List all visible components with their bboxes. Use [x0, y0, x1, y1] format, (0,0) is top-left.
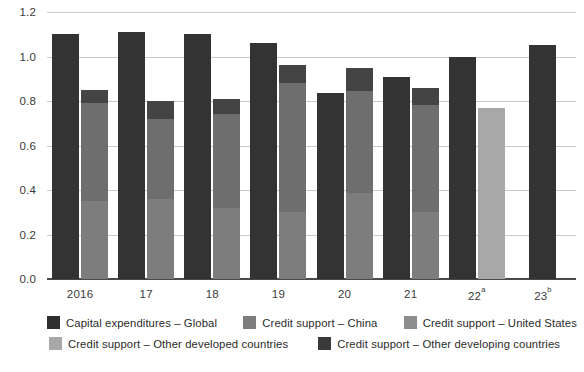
bar-group: [113, 12, 179, 279]
bar-capital-expenditures: [449, 57, 476, 280]
bar-credit-support: [81, 90, 108, 279]
bar-segment: [213, 99, 240, 115]
bar-segment: [213, 208, 240, 279]
bar-segment: [147, 119, 174, 199]
legend-swatch-icon: [243, 316, 256, 329]
legend-label: Credit support – Other developing countr…: [337, 338, 560, 350]
bar-group: [510, 12, 576, 279]
bar-segment: [346, 68, 373, 91]
legend-swatch-icon: [318, 337, 331, 350]
chart-figure: 0.00.20.40.60.81.01.2 2016171819202122a2…: [0, 0, 584, 372]
bar-group: [378, 12, 444, 279]
bar-segment: [346, 91, 373, 193]
x-axis-tick-label: 19: [245, 281, 311, 305]
legend-item: Credit support – Other developing countr…: [318, 337, 560, 350]
y-axis-tick-label: 0.6: [0, 140, 36, 152]
bar-segment: [279, 83, 306, 156]
bar-credit-support: [147, 101, 174, 279]
legend-label: Capital expenditures – Global: [66, 317, 217, 329]
legend-swatch-icon: [49, 337, 62, 350]
legend-swatch-icon: [47, 316, 60, 329]
legend-item: Credit support – United States: [404, 316, 577, 329]
bar-group: [245, 12, 311, 279]
bar-group: [47, 12, 113, 279]
chart-legend: Capital expenditures – GlobalCredit supp…: [47, 312, 577, 354]
bar-capital-expenditures: [529, 45, 556, 279]
bar-credit-support: [412, 88, 439, 279]
bar-segment: [412, 105, 439, 212]
footnote-marker: b: [547, 285, 551, 294]
y-axis-labels: 0.00.20.40.60.81.01.2: [0, 12, 40, 279]
bar-credit-support: [346, 68, 373, 279]
legend-row-1: Capital expenditures – GlobalCredit supp…: [47, 312, 577, 333]
bar-credit-support: [279, 65, 306, 279]
legend-label: Credit support – United States: [423, 317, 577, 329]
bar-segment: [81, 103, 108, 201]
bar-segment: [279, 65, 306, 83]
bar-segment: [412, 212, 439, 279]
x-axis-tick-label: 17: [113, 281, 179, 305]
bar-segment: [279, 157, 306, 213]
bar-segment: [81, 90, 108, 103]
bar-capital-expenditures: [383, 77, 410, 279]
bar-group: [444, 12, 510, 279]
legend-row-2: Credit support – Other developed countri…: [47, 333, 577, 354]
x-axis-tick-label: 18: [179, 281, 245, 305]
x-axis-tick-label: 20: [312, 281, 378, 305]
bar-capital-expenditures: [250, 43, 277, 279]
bar-segment: [478, 108, 505, 279]
x-axis-tick-label: 2016: [47, 281, 113, 305]
bar-capital-expenditures: [317, 93, 344, 279]
bar-credit-support: [213, 99, 240, 279]
bar-groups: [47, 12, 576, 279]
y-axis-tick-label: 0.8: [0, 95, 36, 107]
footnote-marker: a: [481, 285, 485, 294]
bar-segment: [147, 199, 174, 279]
legend-item: Capital expenditures – Global: [47, 316, 217, 329]
x-axis-labels: 2016171819202122a23b: [47, 281, 576, 305]
legend-label: Credit support – Other developed countri…: [68, 338, 288, 350]
bar-credit-support: [478, 108, 505, 279]
legend-item: Credit support – Other developed countri…: [49, 337, 288, 350]
x-axis-tick-label: 21: [378, 281, 444, 305]
bar-capital-expenditures: [118, 32, 145, 279]
y-axis-tick-label: 0.4: [0, 184, 36, 196]
bar-segment: [412, 88, 439, 106]
bar-group: [312, 12, 378, 279]
x-axis-tick-label: 22a: [444, 281, 510, 305]
y-axis-tick-label: 1.2: [0, 6, 36, 18]
legend-item: Credit support – China: [243, 316, 377, 329]
y-axis-tick-label: 1.0: [0, 51, 36, 63]
bar-segment: [81, 201, 108, 279]
bar-segment: [346, 193, 373, 279]
bar-segment: [279, 212, 306, 279]
y-axis-tick-label: 0.0: [0, 273, 36, 285]
bar-capital-expenditures: [184, 34, 211, 279]
bar-capital-expenditures: [52, 34, 79, 279]
y-axis-tick-label: 0.2: [0, 229, 36, 241]
legend-label: Credit support – China: [262, 317, 377, 329]
bar-segment: [213, 114, 240, 207]
legend-swatch-icon: [404, 316, 417, 329]
x-axis-tick-label: 23b: [510, 281, 576, 305]
plot-area: [47, 12, 576, 279]
bar-segment: [147, 101, 174, 119]
bar-group: [179, 12, 245, 279]
